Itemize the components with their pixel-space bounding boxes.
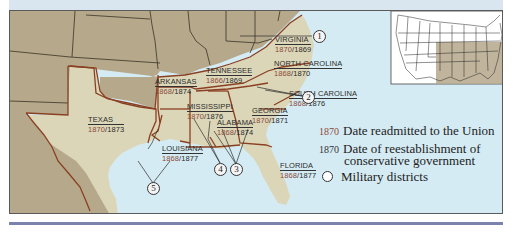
inset-map	[391, 11, 503, 84]
state-label-north-carolina: NORTH CAROLINA 1868/1870	[274, 59, 342, 78]
military-district-3-marker: 3	[230, 163, 243, 176]
state-label-arkansas: ARKANSAS 1868/1874	[155, 77, 197, 96]
legend-conservative-line2: conservative government	[344, 155, 475, 167]
state-label-virginia: VIRGINIA 1870/1869	[275, 35, 311, 54]
top-band	[9, 0, 503, 10]
state-label-georgia: GEORGIA 1870/1871	[252, 106, 288, 125]
legend-districts-label: Military districts	[341, 169, 428, 184]
readmitted-year: 1870	[88, 125, 105, 134]
readmitted-year: 1870	[275, 45, 292, 54]
military-district-circle-icon	[322, 171, 333, 182]
readmitted-year: 1868	[280, 171, 297, 180]
state-label-tennessee: TENNESSEE 1866/1869	[206, 66, 252, 85]
conservative-year: 1869	[294, 45, 311, 54]
conservative-year: 1877	[181, 154, 198, 163]
conservative-year: 1874	[236, 128, 253, 137]
state-name: TENNESSEE	[206, 66, 252, 76]
readmitted-year: 1868	[162, 154, 179, 163]
state-name: NORTH CAROLINA	[274, 59, 342, 69]
legend-districts: Military districts	[319, 171, 428, 183]
state-name: VIRGINIA	[275, 35, 311, 45]
state-label-texas: TEXAS 1870/1873	[88, 115, 124, 134]
bottom-rule	[9, 222, 503, 225]
military-district-4-marker: 4	[214, 163, 227, 176]
readmitted-year: 1868	[274, 69, 291, 78]
conservative-year: 1869	[225, 76, 242, 85]
readmitted-year: 1868	[155, 87, 172, 96]
state-label-south-carolina: SOUTH CAROLINA 1868/1876	[289, 89, 357, 108]
state-name: ALABAMA	[217, 118, 253, 128]
legend-readmitted: 1870Date readmitted to the Union	[319, 125, 495, 138]
readmitted-year: 1870	[252, 116, 269, 125]
conservative-year: 1870	[293, 69, 310, 78]
state-label-florida: FLORIDA 1868/1877	[280, 161, 316, 180]
military-district-1-marker: 1	[313, 30, 326, 43]
legend-conservative-sample: 1870	[319, 144, 339, 155]
state-label-alabama: ALABAMA 1868/1874	[217, 118, 253, 137]
state-name: FLORIDA	[280, 161, 316, 171]
state-name: MISSISSIPPI	[187, 102, 233, 112]
readmitted-year: 1868	[217, 128, 234, 137]
military-district-5-marker: 5	[147, 182, 160, 195]
legend-readmitted-sample: 1870	[319, 126, 339, 137]
legend-readmitted-label: Date readmitted to the Union	[343, 123, 495, 138]
legend-conservative-label-2: conservative government	[344, 153, 475, 168]
state-name: LOUISIANA	[162, 144, 203, 154]
military-district-2-marker: 2	[302, 91, 315, 104]
state-name: ARKANSAS	[155, 77, 197, 87]
readmitted-year: 1866	[206, 76, 223, 85]
conservative-year: 1873	[107, 125, 124, 134]
state-label-louisiana: LOUISIANA 1868/1877	[162, 144, 203, 163]
state-name: GEORGIA	[252, 106, 288, 116]
state-name: SOUTH CAROLINA	[289, 89, 357, 99]
readmitted-year: 1870	[187, 112, 204, 121]
map-frame: VIRGINIA 1870/1869 TENNESSEE 1866/1869 N…	[9, 10, 503, 214]
conservative-year: 1874	[174, 87, 191, 96]
state-name: TEXAS	[88, 115, 124, 125]
conservative-year: 1877	[299, 171, 316, 180]
conservative-year: 1871	[271, 116, 288, 125]
